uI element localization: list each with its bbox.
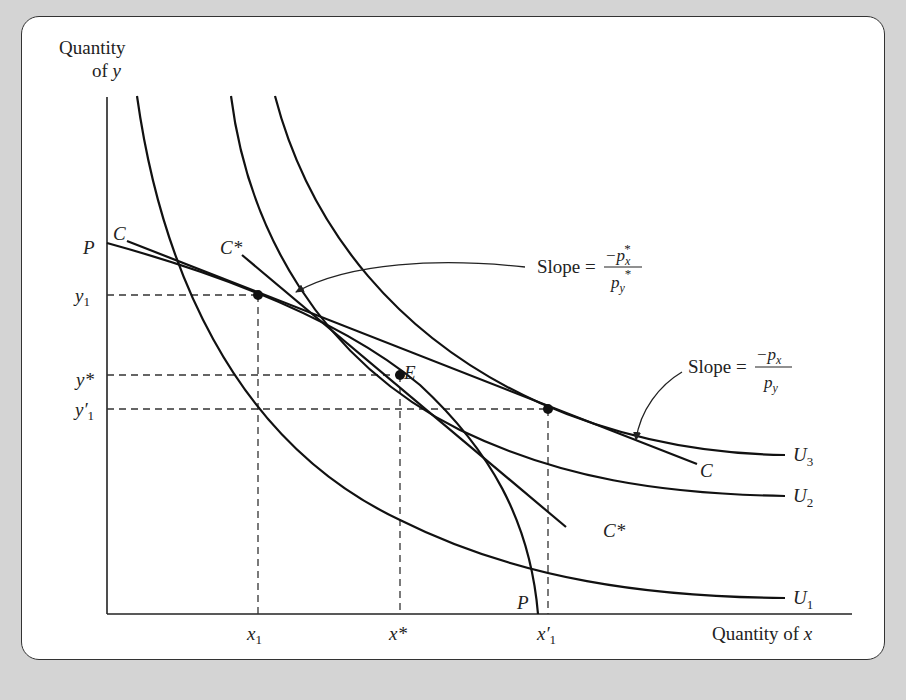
y-axis-label-line2: of y xyxy=(92,60,122,81)
slope-star-numerator: −px* xyxy=(605,241,631,268)
slope-star-denominator: py* xyxy=(610,266,631,295)
ppf-bottom-label-p: P xyxy=(516,592,529,613)
equilibrium-label-e: E xyxy=(403,362,416,383)
u3-label: U3 xyxy=(793,444,813,469)
xstar-tick-label: x* xyxy=(388,623,407,644)
x1prime-tick-label: x′1 xyxy=(536,623,556,647)
price-line-cstar-end-label: C* xyxy=(603,520,626,541)
indifference-curve-u1 xyxy=(137,96,785,598)
ppf-label-p: P xyxy=(82,237,95,258)
slope-numerator: −px xyxy=(756,345,782,367)
indifference-curves xyxy=(137,96,785,598)
production-possibility-frontier xyxy=(107,243,538,614)
x1-tick-label: x1 xyxy=(246,623,262,647)
slope-star-text: Slope = xyxy=(537,256,596,277)
slope-text: Slope = xyxy=(688,356,747,377)
point-x1prime-y1prime xyxy=(543,404,553,414)
price-line-cstar-label: C* xyxy=(220,237,243,258)
price-line-c-end-label: C xyxy=(700,460,713,481)
y1-tick-label: y1 xyxy=(73,285,90,309)
y-axis-label-line1: Quantity xyxy=(59,37,126,58)
y1prime-tick-label: y′1 xyxy=(73,399,94,423)
u2-label: U2 xyxy=(793,485,813,510)
economics-diagram: Quantity of y Quantity of x P C C* E C C… xyxy=(0,0,906,700)
indifference-curve-u2 xyxy=(231,96,785,496)
u1-label: U1 xyxy=(793,587,813,612)
x-axis-label: Quantity of x xyxy=(712,623,813,644)
slope-star-annotation: Slope = −px* py* xyxy=(537,241,642,295)
slope-denominator: py xyxy=(763,373,779,395)
point-x1-y1 xyxy=(253,290,263,300)
indifference-curve-u3 xyxy=(275,96,785,455)
price-line-c-label: C xyxy=(113,223,126,244)
slope-annotation: Slope = −px py xyxy=(688,345,792,395)
ystar-tick-label: y* xyxy=(74,369,94,390)
slope-star-arrow xyxy=(296,263,525,292)
slope-arrow xyxy=(636,372,682,440)
